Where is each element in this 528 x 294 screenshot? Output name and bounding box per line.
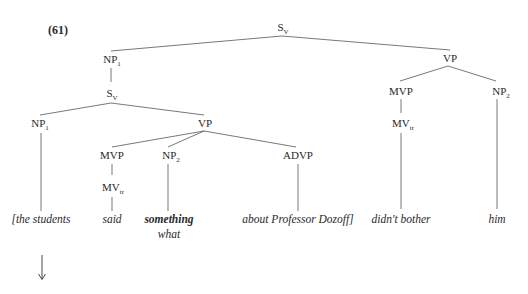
node-mvtr-inner: MVtr: [102, 181, 124, 193]
down-arrow-icon: [39, 255, 46, 280]
node-mvp-main: MVP: [389, 85, 413, 97]
node-advp: ADVP: [283, 149, 313, 161]
word-about-professor-dozoff: about Professor Dozoff]: [242, 213, 353, 226]
node-root-sv: SV: [277, 21, 288, 33]
tree-branches: [0, 0, 528, 294]
node-vp-main: VP: [443, 52, 457, 64]
node-vp-inner: VP: [198, 117, 212, 129]
node-mvp-inner: MVP: [100, 149, 124, 161]
syntax-tree-diagram: (61) SV NP1 SV NP1 VP MVP MVtr NP2 ADVP …: [0, 0, 528, 294]
word-said: said: [102, 213, 121, 226]
word-what: what: [158, 228, 180, 241]
word-didnt-bother: didn't bother: [372, 213, 431, 226]
word-the-students: [the students: [11, 213, 70, 226]
node-np1-inner: NP1: [31, 117, 49, 129]
word-him: him: [488, 213, 505, 226]
example-number: (61): [48, 23, 68, 38]
node-mvtr-main: MVtr: [392, 117, 414, 129]
word-something: something: [144, 213, 193, 226]
node-sv-inner: SV: [106, 87, 117, 99]
node-np2-inner: NP2: [162, 149, 180, 161]
node-np2-main: NP2: [492, 85, 510, 97]
node-np1-top: NP1: [103, 53, 121, 65]
